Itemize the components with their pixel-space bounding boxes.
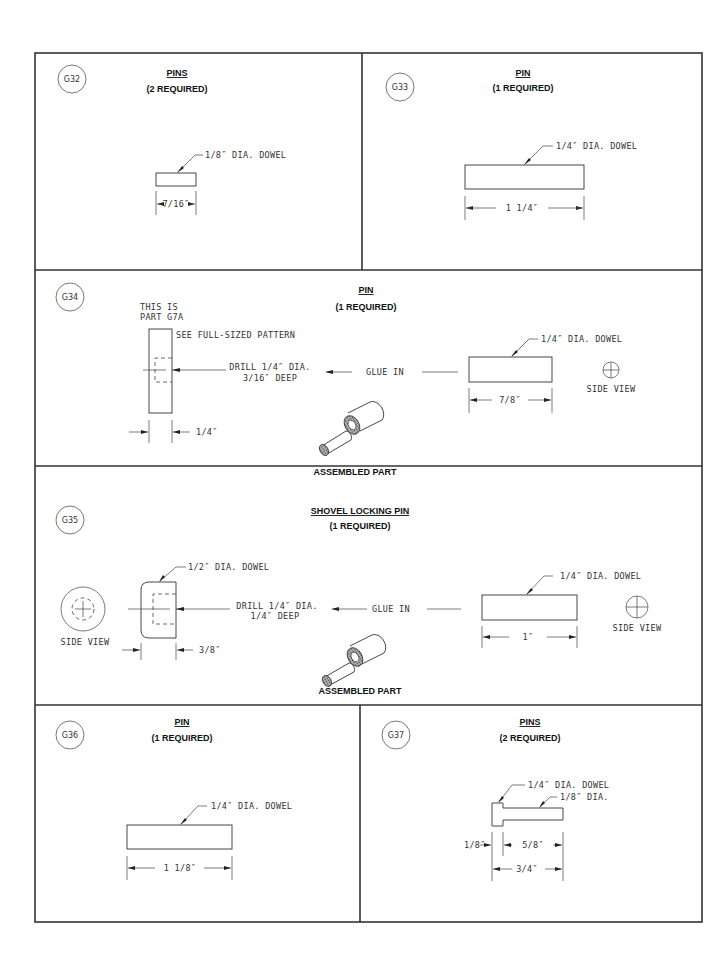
pattern-note: SEE FULL-SIZED PATTERN: [176, 330, 295, 340]
callout-label: 1/8″ DIA.: [560, 792, 609, 802]
dimension-label: 7/8″: [499, 395, 521, 405]
dowel-pin: [156, 173, 196, 186]
dimension-label: 1 1/8″: [164, 863, 197, 873]
quantity-label: (1 REQUIRED): [329, 521, 390, 531]
side-view-label: SIDE VIEW: [613, 623, 662, 633]
stepped-pin: [492, 803, 563, 826]
drill-instruction: DRILL 1/4″ DIA.: [236, 601, 317, 611]
quantity-label: (1 REQUIRED): [492, 83, 553, 93]
quantity-label: (1 REQUIRED): [335, 302, 396, 312]
quantity-label: (1 REQUIRED): [151, 733, 212, 743]
dimension-label: 7/16″: [162, 199, 189, 209]
part-id: G32: [64, 75, 80, 84]
dowel-pin: [465, 165, 584, 189]
panel-title: PIN: [515, 68, 530, 78]
dimension-label: 1 1/4″: [506, 203, 539, 213]
panel-title: PIN: [358, 285, 373, 295]
part-id: G34: [62, 293, 78, 302]
drill-instruction: DRILL 1/4″ DIA.: [229, 362, 310, 372]
side-view-label: SIDE VIEW: [61, 637, 110, 647]
part-tag-g34: G34: [56, 283, 84, 311]
dowel-pin: [482, 595, 577, 620]
part-id: G35: [62, 516, 78, 525]
part-id: G36: [62, 731, 78, 740]
callout-label: 1/4″ DIA. DOWEL: [528, 780, 609, 790]
quantity-label: (2 REQUIRED): [146, 84, 207, 94]
side-view-icon: [626, 596, 648, 618]
part-tag-g37: G37: [382, 721, 410, 749]
panel-g33: G33 PIN (1 REQUIRED) 1/4″ DIA. DOWEL 1 1…: [386, 68, 637, 220]
panel-g34: G34 PIN (1 REQUIRED) THIS IS PART G7A SE…: [56, 283, 636, 477]
part-tag-g33: G33: [386, 73, 414, 101]
dowel-pin: [127, 825, 232, 849]
assembled-label: ASSEMBLED PART: [314, 467, 397, 477]
drill-instruction: 1/4″ DEEP: [251, 611, 300, 621]
part-tag-g32: G32: [58, 65, 86, 93]
assembled-label: ASSEMBLED PART: [319, 686, 402, 696]
panel-g37: G37 PINS (2 REQUIRED) 1/4″ DIA. DOWEL 1/…: [382, 717, 609, 881]
part-tag-g35: G35: [56, 506, 84, 534]
part-tag-g36: G36: [56, 721, 84, 749]
dowel-pin: [469, 357, 552, 382]
side-view-icon: [61, 587, 105, 631]
callout-label: 1/2″ DIA. DOWEL: [188, 562, 269, 572]
panel-title: SHOVEL LOCKING PIN: [311, 506, 409, 516]
panel-g32: G32 PINS (2 REQUIRED) 1/8″ DIA. DOWEL 7/…: [58, 65, 286, 215]
dimension-label: 5/8″: [522, 840, 544, 850]
note-label: THIS IS: [140, 302, 178, 312]
assembled-part-illustration: [321, 634, 386, 688]
side-view-label: SIDE VIEW: [587, 384, 636, 394]
panel-title: PINS: [166, 68, 187, 78]
panel-g36: G36 PIN (1 REQUIRED) 1/4″ DIA. DOWEL 1 1…: [56, 717, 292, 880]
glue-label: GLUE IN: [372, 604, 410, 614]
panel-title: PINS: [519, 717, 540, 727]
part-id: G33: [392, 83, 408, 92]
drill-instruction: 3/16″ DEEP: [243, 373, 297, 383]
callout-label: 1/8″ DIA. DOWEL: [205, 150, 286, 160]
callout-label: 1/4″ DIA. DOWEL: [211, 801, 292, 811]
assembled-part-illustration: [318, 401, 384, 457]
dimension-label: 1″: [523, 632, 534, 642]
dimension-label: 3/4″: [516, 864, 538, 874]
side-view-icon: [603, 362, 619, 378]
callout-label: 1/4″ DIA. DOWEL: [556, 141, 637, 151]
panel-g35: G35 SHOVEL LOCKING PIN (1 REQUIRED) SIDE…: [56, 506, 662, 696]
part-id: G37: [388, 731, 404, 740]
dimension-label: 3/8″: [199, 645, 221, 655]
glue-label: GLUE IN: [366, 367, 404, 377]
part-g7a: [149, 329, 172, 413]
dowel-part: [141, 582, 176, 638]
quantity-label: (2 REQUIRED): [499, 733, 560, 743]
drawing-sheet: G32 PINS (2 REQUIRED) 1/8″ DIA. DOWEL 7/…: [0, 0, 709, 966]
callout-label: 1/4″ DIA. DOWEL: [541, 334, 622, 344]
note-label: PART G7A: [140, 312, 183, 322]
panel-title: PIN: [174, 717, 189, 727]
dimension-label: 1/4″: [196, 427, 218, 437]
callout-label: 1/4″ DIA. DOWEL: [560, 571, 641, 581]
